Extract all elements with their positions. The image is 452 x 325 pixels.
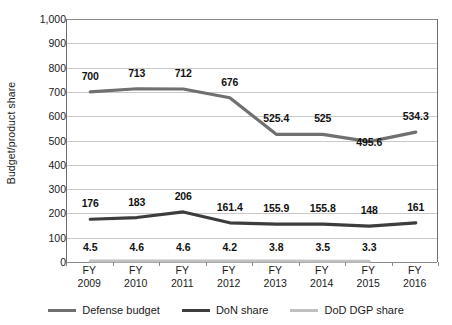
x-axis-labels: FY2009FY2010FY2011FY2012FY2013FY2014FY20… <box>66 264 438 298</box>
legend-label: Defense budget <box>82 304 160 316</box>
data-point-label: 712 <box>175 67 192 79</box>
data-point-label: 495.6 <box>356 136 382 148</box>
legend-item[interactable]: DoN share <box>182 304 269 316</box>
data-point-label: 161 <box>407 201 424 213</box>
data-point-label: 525 <box>314 112 331 124</box>
data-point-label: 700 <box>82 70 99 82</box>
data-point-label: 713 <box>128 67 145 79</box>
legend-swatch-icon <box>290 309 318 312</box>
y-tick-label: 100 <box>24 232 66 244</box>
y-tick-label: 900 <box>24 37 66 49</box>
legend-swatch-icon <box>48 309 76 312</box>
data-point-label: 183 <box>128 196 145 208</box>
line-chart: Budget/product share 0100200300400500600… <box>0 0 452 325</box>
data-point-label: 161.4 <box>217 201 243 213</box>
data-point-label: 534.3 <box>403 110 429 122</box>
y-tick-label: 800 <box>24 62 66 74</box>
y-axis-title: Budget/product share <box>0 0 22 265</box>
data-point-label: 206 <box>175 190 192 202</box>
y-tick-label: 400 <box>24 159 66 171</box>
data-point-label: 4.6 <box>130 241 144 253</box>
y-tick-label: 1,000 <box>24 13 66 25</box>
data-point-label: 4.6 <box>176 241 190 253</box>
x-axis-label: FY2016 <box>385 264 445 289</box>
data-point-label: 176 <box>82 197 99 209</box>
legend-label: DoD DGP share <box>324 304 403 316</box>
plot-area: 700713712676525.4525495.6534.31761832061… <box>66 19 438 262</box>
x-axis-label-year: 2016 <box>385 277 445 290</box>
y-tick-label: 200 <box>24 207 66 219</box>
data-point-label: 148 <box>361 204 378 216</box>
y-tick-label: 300 <box>24 183 66 195</box>
legend-swatch-icon <box>182 309 210 312</box>
data-point-label: 4.5 <box>83 241 97 253</box>
data-point-label: 4.2 <box>223 241 237 253</box>
x-axis-label-fy: FY <box>385 264 445 277</box>
y-tick-label: 600 <box>24 110 66 122</box>
legend-item[interactable]: Defense budget <box>48 304 160 316</box>
data-point-label: 3.5 <box>316 241 330 253</box>
series-lines <box>67 19 439 262</box>
data-point-label: 155.9 <box>263 202 289 214</box>
y-tick-label: 700 <box>24 86 66 98</box>
data-point-label: 676 <box>221 76 238 88</box>
y-tick-label: 500 <box>24 135 66 147</box>
data-point-label: 3.3 <box>362 241 376 253</box>
data-point-label: 3.8 <box>269 241 283 253</box>
chart-legend: Defense budgetDoN shareDoD DGP share <box>0 300 452 320</box>
legend-label: DoN share <box>216 304 269 316</box>
y-axis-ticks: 01002003004005006007008009001,000 <box>20 19 66 262</box>
data-point-label: 525.4 <box>263 112 289 124</box>
y-axis-title-text: Budget/product share <box>5 81 17 183</box>
series-line <box>90 89 416 142</box>
legend-item[interactable]: DoD DGP share <box>290 304 403 316</box>
data-point-label: 155.8 <box>310 202 336 214</box>
